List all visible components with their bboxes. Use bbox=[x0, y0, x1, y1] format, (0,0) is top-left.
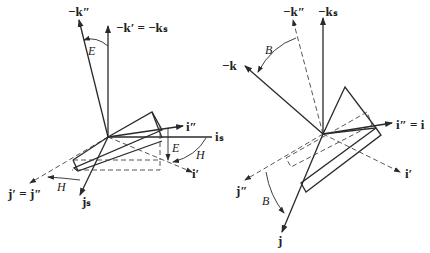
label-angle-h-right: H bbox=[195, 148, 206, 162]
label-neg-k-s: −kₛ bbox=[318, 4, 338, 19]
j-double-prime-axis bbox=[245, 134, 323, 180]
label-j-prime: j′ = j″ bbox=[7, 186, 41, 201]
label-angle-e-top: E bbox=[87, 44, 96, 58]
label-j-dd: j″ bbox=[235, 183, 248, 198]
label-angle-e-side: E bbox=[171, 141, 180, 155]
label-angle-b-bottom: B bbox=[262, 194, 270, 208]
label-angle-b-top: B bbox=[265, 43, 273, 57]
i-double-prime-axis bbox=[108, 126, 183, 137]
label-i-prime: i′ bbox=[192, 166, 199, 181]
right-figure: −k″ −kₛ −k B i″ = i i′ j″ j B bbox=[222, 4, 425, 248]
label-i-s: iₛ bbox=[215, 129, 224, 144]
label-neg-k-dd-right: −k″ bbox=[283, 4, 305, 19]
label-i-prime-right: i′ bbox=[405, 166, 412, 181]
i-prime-axis bbox=[108, 137, 192, 172]
left-figure: −k″ −k′ = −kₛ E i″ iₛ i′ j′ = j″ jₛ E H … bbox=[7, 4, 224, 209]
i-prime-axis-right bbox=[323, 134, 400, 172]
angle-b-arc-top bbox=[258, 38, 296, 72]
label-j-s: jₛ bbox=[81, 194, 91, 209]
label-neg-k: −k bbox=[222, 58, 237, 73]
label-neg-k-dd: −k″ bbox=[68, 4, 90, 19]
label-i-dd: i″ bbox=[186, 119, 197, 134]
label-i-dd-eq-i: i″ = i bbox=[396, 117, 425, 132]
neg-k-double-prime-axis bbox=[79, 20, 108, 137]
label-j: j bbox=[277, 233, 282, 248]
neg-k-axis bbox=[245, 66, 323, 134]
neg-k-double-prime-axis-right bbox=[293, 20, 323, 134]
label-neg-k-prime: −k′ = −kₛ bbox=[116, 20, 168, 35]
coordinate-frames-diagram: −k″ −k′ = −kₛ E i″ iₛ i′ j′ = j″ jₛ E H … bbox=[0, 0, 430, 253]
label-angle-h-left: H bbox=[56, 180, 67, 194]
rotated-plate bbox=[301, 128, 381, 192]
